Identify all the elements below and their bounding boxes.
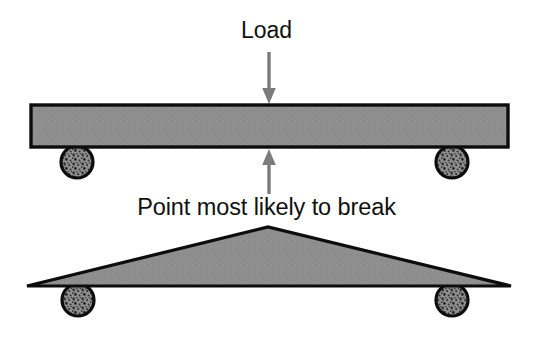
support-roller-bottom-left	[62, 284, 94, 316]
break-point-label: Point most likely to break	[0, 196, 533, 220]
figure-canvas: Load Point most likely to break	[0, 0, 533, 337]
deflected-beam-group	[27, 149, 511, 316]
beam-undeflected	[31, 105, 508, 147]
beam-deflected-triangle	[27, 227, 511, 286]
beam-load-diagram	[0, 0, 533, 337]
support-roller-top-left	[61, 146, 93, 178]
support-roller-bottom-right	[436, 284, 468, 316]
break-point-arrow-up-icon	[262, 149, 276, 194]
load-arrow-down-icon	[262, 52, 276, 104]
support-roller-top-right	[436, 146, 468, 178]
load-label: Load	[0, 19, 533, 42]
